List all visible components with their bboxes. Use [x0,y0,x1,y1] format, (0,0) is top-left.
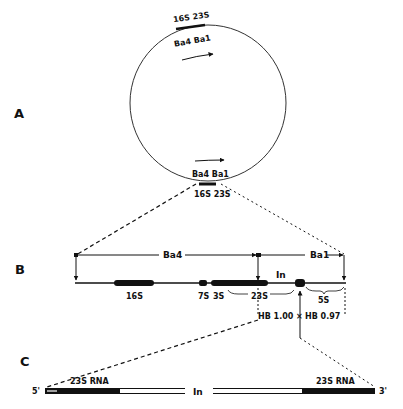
gene-16s-label: 16S [126,292,143,301]
fragment-ba4-label: Ba4 [163,250,182,260]
rna-right-exon [302,388,375,394]
intron-box [295,279,305,287]
panel-label-b: B [15,262,25,277]
gene-23s-bar [211,280,268,286]
bottom-rrna-label: 16S 23S [194,190,231,199]
gene-23s-brace-right [270,290,294,294]
figure-canvas: A 16S 23S Ba4 Ba1 Ba4 Ba1 16S 23S B Ba4 … [0,0,403,409]
rna-23s-right-label: 23S RNA [316,377,356,386]
ba4-left-node [74,253,78,257]
gene-3s-label: 3S [213,292,225,301]
top-rrna-marker [176,25,205,29]
bottom-probe-label: Ba4 Ba1 [192,170,229,179]
gene-7s-bar [199,280,207,286]
three-prime-label: 3' [379,387,387,396]
rrna-operon-diagram: A 16S 23S Ba4 Ba1 Ba4 Ba1 16S 23S B Ba4 … [0,0,403,409]
gene-23s-brace-left [228,290,248,294]
plasmid-circle [130,25,286,181]
intron-label-c: In [193,387,203,397]
gene-16s-bar [114,280,154,286]
rna-left-tail-marks [47,390,57,392]
fragment-cross-mark: × [296,312,303,321]
top-rrna-label: 16S 23S [172,10,210,24]
rna-23s-left-label: 23S RNA [70,377,110,386]
panel-label-a: A [14,106,24,121]
gene-5s-brace [306,287,344,294]
gene-23s-label: 23S [251,292,268,301]
gene-7s-label: 7S [198,292,210,301]
top-probe-label: Ba4 Ba1 [173,33,211,48]
intron-label-b: In [276,270,286,280]
bottom-direction-arrow [195,160,224,161]
projection-line-left [76,184,196,255]
five-prime-label: 5' [32,387,40,396]
fragment-ba1-label: Ba1 [310,250,329,260]
projection-line-right [221,184,344,254]
panel-label-c: C [20,354,30,369]
gene-5s-label: 5S [318,296,330,305]
fragment-end-hb097: HB 0.97 [305,312,340,321]
top-direction-arrow [182,54,213,60]
fragment-end-hb100: HB 1.00 [258,312,294,321]
